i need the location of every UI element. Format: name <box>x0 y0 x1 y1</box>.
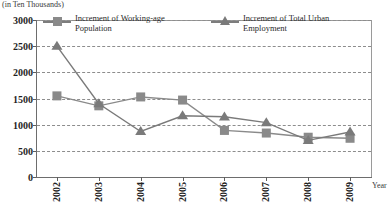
chart-legend: Increment of Working-age Population Incr… <box>43 14 363 40</box>
y-axis-tick-label: 1500 <box>1 93 33 104</box>
y-axis-tick-label: 500 <box>1 145 33 156</box>
gridline <box>37 151 371 152</box>
x-axis-tick <box>308 177 309 181</box>
x-axis-tick-label: 2003 <box>94 182 104 202</box>
x-axis-tick-label: 2007 <box>261 182 271 202</box>
y-axis-tick-label: 1000 <box>1 119 33 130</box>
x-axis-tick-label: 2008 <box>303 182 313 202</box>
x-axis-tick-label: 2005 <box>178 182 188 202</box>
x-axis-tick-label: 2006 <box>219 182 229 202</box>
y-axis-line <box>36 20 37 178</box>
x-axis-title: Year <box>372 181 387 190</box>
y-axis-tick-label: 0 <box>1 172 33 183</box>
y-axis-tick-label: 2500 <box>1 41 33 52</box>
x-axis-tick <box>99 177 100 181</box>
y-axis-tick-label: 3000 <box>1 15 33 26</box>
triangle-marker-icon <box>211 15 239 29</box>
x-axis-tick <box>266 177 267 181</box>
x-axis-tick <box>141 177 142 181</box>
gridline <box>37 46 371 47</box>
legend-item-working-age-population: Increment of Working-age Population <box>43 14 165 33</box>
legend-label-0: Increment of Working-age Population <box>75 14 165 33</box>
y-axis-tick-label: 2000 <box>1 67 33 78</box>
x-axis-tick <box>350 177 351 181</box>
x-axis-tick <box>57 177 58 181</box>
gridline <box>37 125 371 126</box>
square-marker-icon <box>43 15 71 29</box>
x-axis-tick-label: 2002 <box>52 182 62 202</box>
gridline <box>37 72 371 73</box>
x-axis-line <box>36 177 372 178</box>
legend-item-total-urban-employment: Increment of Total Urban Employment <box>211 14 329 33</box>
x-axis-tick <box>183 177 184 181</box>
x-axis-tick-label: 2009 <box>345 182 355 202</box>
gridline <box>37 99 371 100</box>
x-axis-tick-label: 2004 <box>136 182 146 202</box>
legend-label-1: Increment of Total Urban Employment <box>243 14 329 33</box>
y-axis-labels-group: 050010001500200025003000 <box>0 0 33 215</box>
chart-container: (in Ten Thousands) 050010001500200025003… <box>0 0 390 215</box>
x-axis-tick <box>224 177 225 181</box>
